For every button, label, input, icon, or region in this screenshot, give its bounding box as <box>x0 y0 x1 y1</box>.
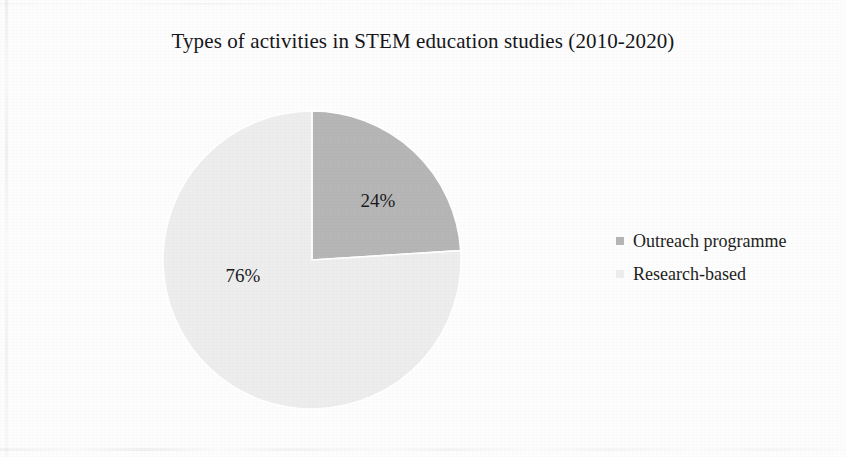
pie-chart-svg <box>162 110 462 410</box>
chart-legend: Outreach programme Research-based <box>616 224 841 290</box>
chart-figure: Types of activities in STEM education st… <box>0 0 846 457</box>
scan-artifact-top-edge <box>0 3 846 5</box>
pie-chart: 24% 76% <box>162 110 462 410</box>
scan-artifact-bottom-edge <box>0 448 846 451</box>
chart-title: Types of activities in STEM education st… <box>0 28 846 55</box>
legend-swatch-square-icon <box>616 270 624 278</box>
legend-item-outreach-programme[interactable]: Outreach programme <box>616 224 841 257</box>
legend-item-label: Outreach programme <box>633 230 786 252</box>
pie-slice-group <box>163 111 461 409</box>
legend-item-research-based[interactable]: Research-based <box>616 257 841 290</box>
legend-item-label: Research-based <box>633 263 746 285</box>
pie-slice-outreach-programme[interactable] <box>312 111 461 260</box>
legend-swatch-square-icon <box>616 237 624 245</box>
scan-artifact-left-edge <box>5 0 8 457</box>
pie-slice-label-research-based: 76% <box>226 266 261 285</box>
pie-slice-label-outreach-programme: 24% <box>361 191 396 210</box>
